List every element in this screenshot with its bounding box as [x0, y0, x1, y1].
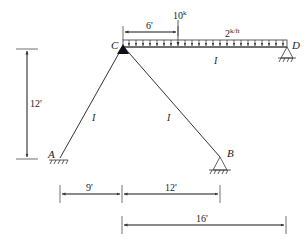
- member-label-ac: I: [91, 112, 96, 123]
- member-bc: [123, 46, 220, 157]
- node-label-c: C: [111, 39, 119, 51]
- dimension-row-1: [60, 185, 220, 203]
- node-label-b: B: [227, 147, 234, 159]
- pin-support-b: [209, 157, 231, 174]
- dimension-label-ac: 9': [86, 182, 93, 193]
- frame-diagram: C D A B I I I 10k 2k/ft 6' 12' 9' 12' 16…: [0, 0, 308, 247]
- dimension-label-load-offset: 6': [146, 20, 153, 31]
- member-ac: [60, 46, 123, 158]
- dimension-label-height: 12': [30, 98, 42, 109]
- distributed-load: [123, 40, 287, 47]
- fixed-support-a: [49, 160, 68, 164]
- member-label-cd: I: [213, 55, 218, 66]
- node-label-a: A: [47, 148, 55, 160]
- dimension-label-cb: 12': [165, 182, 177, 193]
- hinge-c: [117, 44, 129, 54]
- dimension-label-cd: 16': [196, 213, 208, 224]
- member-label-bc: I: [166, 112, 171, 123]
- distributed-load-label: 2k/ft: [225, 27, 240, 39]
- point-load-label: 10k: [173, 9, 187, 21]
- node-label-d: D: [291, 39, 300, 51]
